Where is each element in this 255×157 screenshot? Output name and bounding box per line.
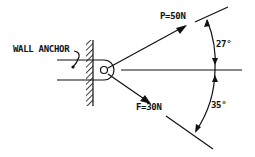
force-p-label: P=50N: [160, 11, 186, 21]
leader-line: [73, 51, 79, 67]
leader-dot: [71, 65, 74, 68]
wall-anchor-label: WALL ANCHOR: [13, 44, 70, 54]
arrowhead-icon: [176, 25, 187, 34]
pin-icon: [101, 67, 108, 74]
angle-f-label: 35°: [211, 100, 226, 110]
wall-anchor: [57, 60, 114, 80]
force-f-label: F=30N: [136, 102, 162, 112]
force-diagram: WALL ANCHOR P=50N F=30N 27° 35°: [0, 0, 255, 157]
wall: [86, 40, 93, 106]
angle-p-label: 27°: [216, 39, 231, 49]
angle-arcs: [195, 19, 218, 133]
